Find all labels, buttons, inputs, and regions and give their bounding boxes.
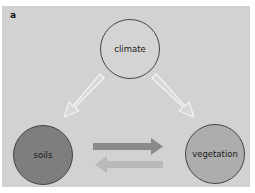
- node-vegetation: vegetation: [186, 125, 245, 184]
- arrow-climate-to-soils: [64, 74, 104, 117]
- node-vegetation-label: vegetation: [192, 149, 238, 159]
- node-soils-label: soils: [34, 150, 53, 160]
- arrow-vegetation-to-soils: [95, 156, 163, 173]
- figure-canvas: a climate soils vegeta: [0, 0, 255, 193]
- node-soils: soils: [14, 126, 73, 185]
- node-climate: climate: [101, 20, 160, 79]
- arrow-climate-to-vegetation: [152, 74, 194, 117]
- node-climate-label: climate: [114, 44, 145, 54]
- diagram-svg: climate soils vegetation: [0, 0, 255, 193]
- arrow-soils-to-vegetation: [93, 138, 163, 155]
